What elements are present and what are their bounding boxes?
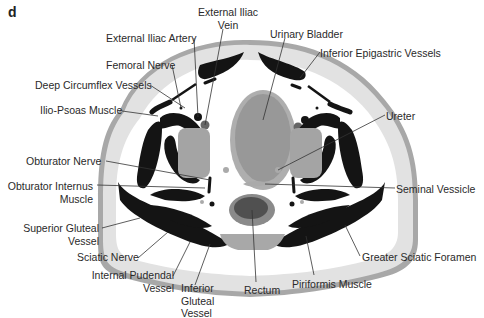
obturator-region-right	[290, 128, 322, 178]
gluteal-vessel-right	[300, 200, 304, 204]
label-external-iliac-artery: External Iliac Artery	[106, 32, 196, 45]
label-seminal-vessicle: Seminal Vessicle	[396, 183, 475, 196]
pudendal-vessel-left	[210, 202, 215, 207]
label-internal-pudendal-vessel: Internal Pudendal Vessel	[85, 269, 174, 294]
femoral-nerve-right	[316, 107, 319, 110]
label-inferior-epigastric-vessels: Inferior Epigastric Vessels	[320, 47, 441, 60]
obturator-region-left	[178, 128, 210, 178]
label-ilio-psoas-muscle: Ilio-Psoas Muscle	[40, 104, 122, 117]
label-external-iliac-vein: External Iliac Vein	[198, 6, 258, 31]
pelvis-cross-section-figure: d External Iliac Vein External Iliac Art…	[0, 0, 484, 318]
label-greater-sciatic-foramen: Greater Sciatic Foramen	[362, 251, 476, 264]
label-superior-gluteal-vessel: Superior Gluteal Vessel	[10, 222, 99, 247]
label-urinary-bladder: Urinary Bladder	[270, 28, 343, 41]
label-deep-circumflex-vessels: Deep Circumflex Vessels	[35, 79, 152, 92]
panel-letter: d	[8, 4, 17, 20]
urinary-bladder-inner	[235, 94, 291, 182]
rectum-inner	[234, 197, 268, 219]
pudendal-vessel-right	[290, 202, 295, 207]
gluteal-vessel-left	[200, 200, 204, 204]
label-rectum: Rectum	[244, 284, 280, 297]
label-piriformis-muscle: Piriformis Muscle	[292, 278, 372, 291]
label-femoral-nerve: Femoral Nerve	[106, 59, 175, 72]
label-ureter: Ureter	[386, 110, 415, 123]
label-sciatic-nerve: Sciatic Nerve	[77, 251, 139, 264]
label-obturator-nerve: Obturator Nerve	[26, 155, 101, 168]
label-inferior-gluteal-vessel: Inferior Gluteal Vessel	[181, 282, 214, 318]
label-obturator-internus-muscle: Obturator Internus Muscle	[7, 180, 93, 205]
ureter-left	[223, 167, 229, 173]
